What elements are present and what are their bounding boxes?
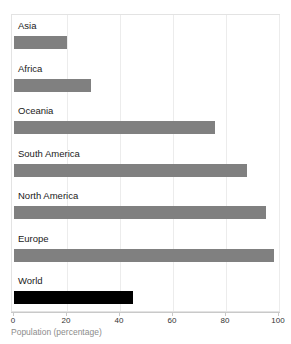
bar-category-label: World	[18, 275, 43, 287]
bar-category-label: South America	[18, 148, 80, 160]
x-axis-title: Population (percentage)	[11, 327, 102, 338]
x-tick-label: 60	[168, 316, 177, 326]
bar-group: Oceania	[12, 100, 279, 143]
chart-title	[0, 0, 291, 5]
x-tick-label: 0	[11, 316, 15, 326]
gridline	[279, 15, 280, 311]
x-tick-label: 40	[115, 316, 124, 326]
bar-group: South America	[12, 143, 279, 186]
bar-category-label: Oceania	[18, 105, 53, 117]
x-tick-label: 100	[271, 316, 284, 326]
bar-category-label: Asia	[18, 20, 36, 32]
bars-layer: AsiaAfricaOceaniaSouth AmericaNorth Amer…	[12, 15, 279, 311]
bar	[14, 291, 133, 304]
bar-group: Europe	[12, 228, 279, 271]
x-tick-label: 20	[62, 316, 71, 326]
bar	[14, 249, 274, 262]
x-axis-ticks: 020406080100	[11, 313, 280, 325]
bar	[14, 164, 247, 177]
bar-group: Asia	[12, 15, 279, 58]
bar-group: Africa	[12, 58, 279, 101]
x-tick-label: 80	[221, 316, 230, 326]
bar	[14, 79, 91, 92]
bar-category-label: North America	[18, 190, 78, 202]
bar-group: North America	[12, 185, 279, 228]
bar-category-label: Europe	[18, 233, 49, 245]
bar-group: World	[12, 270, 279, 313]
plot-area: AsiaAfricaOceaniaSouth AmericaNorth Amer…	[11, 14, 280, 312]
bar-category-label: Africa	[18, 63, 42, 75]
bar	[14, 36, 67, 49]
bar-chart: AsiaAfricaOceaniaSouth AmericaNorth Amer…	[0, 0, 291, 344]
bar	[14, 121, 215, 134]
bar	[14, 206, 266, 219]
